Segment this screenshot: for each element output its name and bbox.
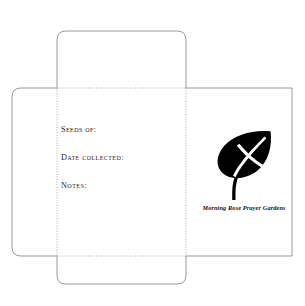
leaf-with-cross-icon bbox=[213, 128, 275, 202]
brand-block: Morning Rose Prayer Gardens bbox=[196, 128, 292, 211]
brand-name: Morning Rose Prayer Gardens bbox=[196, 204, 292, 211]
bottom-flap-cut-line bbox=[57, 256, 186, 284]
field-notes: Notes: bbox=[61, 182, 171, 190]
front-panel-fields: Seeds of: Date collected: Notes: bbox=[61, 126, 171, 191]
top-flap-cut-line bbox=[57, 31, 186, 88]
seed-envelope-template: Seeds of: Date collected: Notes: Morning… bbox=[0, 0, 305, 306]
left-flap-cut-line bbox=[12, 88, 57, 256]
field-seeds-of: Seeds of: bbox=[61, 126, 171, 134]
field-date-collected: Date collected: bbox=[61, 154, 171, 162]
